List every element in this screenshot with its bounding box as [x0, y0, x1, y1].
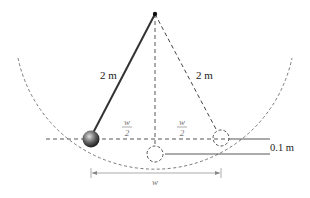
- pendulum-diagram: 2 m 2 m w 2 w 2 0.1 m w: [0, 0, 310, 198]
- height-difference-label: 0.1 m: [270, 142, 294, 153]
- right-string-label: 2 m: [196, 69, 213, 81]
- half-width-right-numerator: w: [179, 117, 185, 127]
- pivot-point: [153, 12, 157, 16]
- left-string-label: 2 m: [100, 69, 117, 81]
- total-width-label: w: [152, 177, 158, 187]
- half-width-right-denominator: 2: [180, 128, 185, 138]
- half-width-left-denominator: 2: [125, 128, 130, 138]
- half-width-left-numerator: w: [124, 117, 130, 127]
- bottom-position-circle: [147, 146, 163, 162]
- pendulum-bob: [83, 131, 100, 148]
- width-arrow-right: [215, 171, 220, 175]
- width-arrow-left: [92, 171, 97, 175]
- right-position-circle: [213, 130, 229, 146]
